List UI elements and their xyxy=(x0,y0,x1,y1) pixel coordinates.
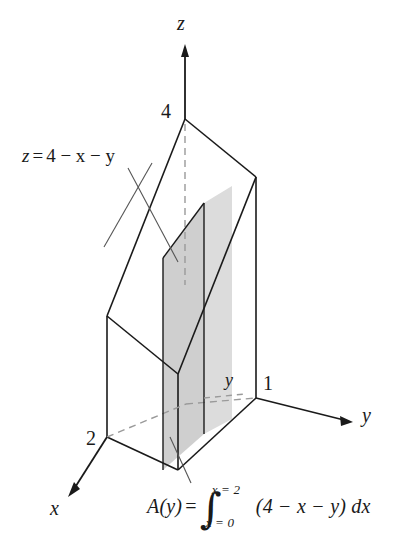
axis-y-line xyxy=(256,398,344,420)
edge-apex-to-right-top xyxy=(185,119,256,177)
axis-y-arrowhead xyxy=(340,416,353,426)
leader-plane-label xyxy=(128,168,178,262)
plane-eq-equals: = xyxy=(29,145,46,166)
integral-lower-limit: x = 0 xyxy=(206,515,235,531)
axis-z-arrowhead xyxy=(181,44,189,57)
leader-plane-label-second xyxy=(104,163,152,247)
plane-equation-label: z=4 − x − y xyxy=(22,145,115,167)
tick-label-z-4: 4 xyxy=(161,100,171,123)
tick-label-y-1: 1 xyxy=(263,372,273,395)
slab-side-face xyxy=(163,203,204,470)
plane-eq-rhs: 4 − x − y xyxy=(46,145,115,166)
axis-label-y: y xyxy=(362,404,371,427)
axis-label-z: z xyxy=(177,12,185,35)
cross-section-formula: A(y)=∫x = 2x = 0(4 − x − y) dx xyxy=(147,495,371,522)
formula-integrand: (4 − x − y) dx xyxy=(256,495,371,517)
formula-equals: = xyxy=(182,495,199,517)
solid-cross-section-diagram xyxy=(0,0,412,549)
integral-upper-limit: x = 2 xyxy=(212,482,241,498)
axis-label-x: x xyxy=(50,497,59,520)
tick-label-x-2: 2 xyxy=(86,427,96,450)
axis-x-arrowhead xyxy=(68,482,80,497)
tick-label-slab-y: y xyxy=(225,370,233,391)
integral-group: ∫x = 2x = 0 xyxy=(200,495,222,521)
formula-area-name: A(y) xyxy=(147,495,182,517)
